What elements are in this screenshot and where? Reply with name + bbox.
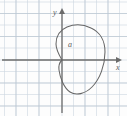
grid-major: [0, 0, 127, 116]
plot-canvas: a y x: [0, 0, 127, 116]
x-axis-label: x: [115, 63, 120, 72]
y-axis-label: y: [52, 8, 57, 17]
cardioid-figure: a y x: [0, 0, 127, 116]
a-label: a: [68, 40, 72, 49]
y-axis-arrow-icon: [59, 8, 65, 14]
